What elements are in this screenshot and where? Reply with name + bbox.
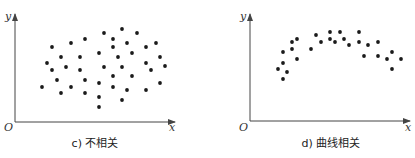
scatter-points — [40, 27, 167, 109]
data-point — [144, 45, 148, 49]
data-point — [281, 50, 285, 54]
data-point — [154, 41, 158, 45]
data-point — [357, 40, 361, 44]
data-point — [362, 54, 366, 58]
data-point — [111, 85, 115, 89]
chart-caption: c) 不相关 — [72, 136, 119, 150]
data-point — [83, 78, 87, 82]
data-point — [69, 41, 73, 45]
data-point — [59, 91, 63, 95]
x-axis-label: x — [405, 121, 412, 134]
data-point — [125, 88, 129, 92]
data-point — [376, 40, 380, 44]
scatter-points — [276, 30, 403, 81]
data-point — [102, 65, 106, 69]
data-point — [347, 43, 351, 47]
data-point — [78, 68, 82, 72]
chart-d: y O x d) 曲线相关 — [239, 10, 412, 150]
data-point — [120, 65, 124, 69]
data-point — [390, 50, 394, 54]
data-point — [276, 67, 280, 71]
x-axis-label: x — [169, 121, 176, 134]
data-point — [97, 51, 101, 55]
data-point — [158, 81, 162, 85]
data-point — [59, 55, 63, 59]
data-point — [319, 40, 323, 44]
data-point — [116, 55, 120, 59]
data-point — [149, 68, 153, 72]
data-point — [281, 61, 285, 65]
data-point — [333, 40, 337, 44]
data-point — [144, 61, 148, 65]
data-point — [376, 54, 380, 58]
data-point — [111, 74, 115, 78]
data-point — [78, 55, 82, 59]
data-point — [55, 78, 59, 82]
data-point — [50, 68, 54, 72]
data-point — [45, 61, 49, 65]
data-point — [399, 57, 403, 61]
data-point — [120, 27, 124, 31]
data-point — [120, 98, 124, 102]
data-point — [97, 105, 101, 109]
data-point — [357, 30, 361, 34]
data-point — [130, 51, 134, 55]
data-point — [97, 95, 101, 99]
data-point — [309, 47, 313, 51]
data-point — [69, 85, 73, 89]
chart-c: y O x c) 不相关 — [4, 10, 176, 150]
data-point — [40, 85, 44, 89]
data-point — [163, 64, 167, 68]
origin-label: O — [239, 121, 248, 134]
data-point — [385, 57, 389, 61]
data-point — [314, 33, 318, 37]
data-point — [144, 88, 148, 92]
data-point — [338, 30, 342, 34]
data-point — [50, 45, 54, 49]
data-point — [130, 74, 134, 78]
data-point — [102, 31, 106, 35]
data-point — [281, 77, 285, 81]
data-point — [390, 67, 394, 71]
origin-label: O — [4, 121, 13, 134]
y-axis-label: y — [4, 10, 12, 23]
data-point — [83, 91, 87, 95]
data-point — [125, 41, 129, 45]
data-point — [111, 45, 115, 49]
data-point — [135, 31, 139, 35]
data-point — [295, 57, 299, 61]
data-point — [366, 43, 370, 47]
data-point — [328, 30, 332, 34]
data-point — [290, 40, 294, 44]
data-point — [290, 47, 294, 51]
y-axis-label: y — [239, 10, 247, 23]
data-point — [328, 37, 332, 41]
data-point — [97, 81, 101, 85]
data-point — [342, 37, 346, 41]
figure: y O x c) 不相关 y O x d) 曲线相关 — [0, 0, 415, 158]
data-point — [285, 70, 289, 74]
chart-caption: d) 曲线相关 — [302, 136, 361, 150]
data-point — [295, 37, 299, 41]
data-point — [111, 37, 115, 41]
data-point — [83, 37, 87, 41]
data-point — [158, 55, 162, 59]
data-point — [64, 65, 68, 69]
